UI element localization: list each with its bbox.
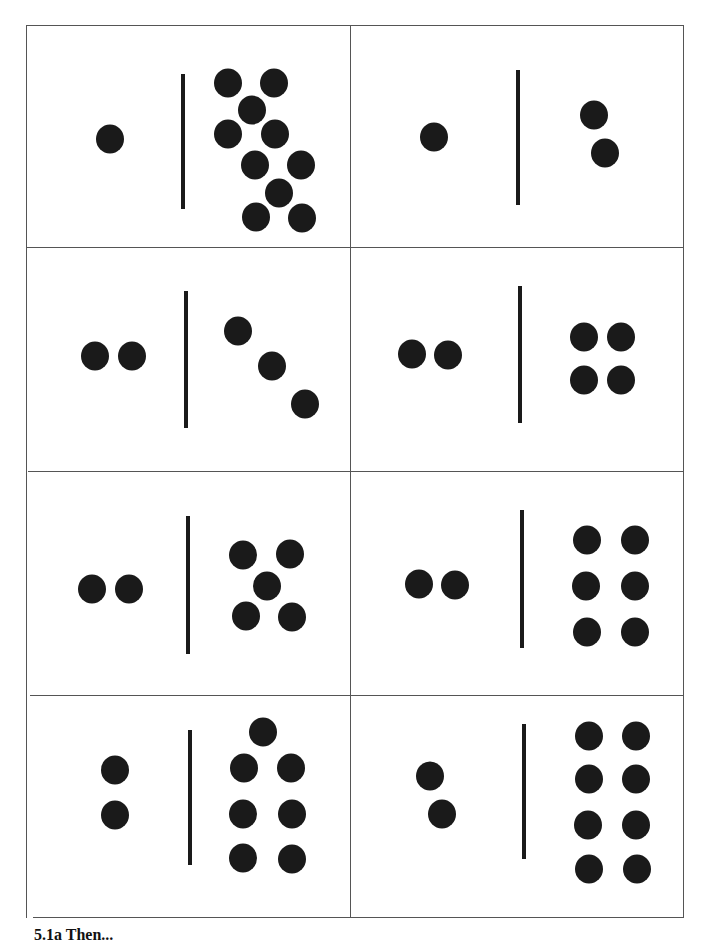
right-dot-icon bbox=[607, 366, 635, 395]
grid-row-divider-3 bbox=[30, 695, 684, 696]
right-dot-icon bbox=[229, 541, 257, 570]
grid-row-divider-2 bbox=[28, 471, 684, 472]
left-dot-icon bbox=[420, 123, 448, 152]
card-divider-line bbox=[516, 70, 520, 205]
right-dot-icon bbox=[621, 572, 649, 601]
left-dot-icon bbox=[405, 570, 433, 599]
left-dot-icon bbox=[81, 342, 109, 371]
right-dot-icon bbox=[278, 845, 306, 874]
footer-caption: 5.1a Then... bbox=[34, 926, 113, 944]
right-dot-icon bbox=[258, 352, 286, 381]
left-dot-icon bbox=[428, 800, 456, 829]
grid-row-divider-1 bbox=[26, 247, 684, 248]
right-dot-icon bbox=[276, 540, 304, 569]
left-dot-icon bbox=[96, 125, 124, 154]
card-divider-line bbox=[520, 510, 524, 648]
right-dot-icon bbox=[291, 390, 319, 419]
right-dot-icon bbox=[278, 800, 306, 829]
card-divider-line bbox=[184, 291, 188, 428]
right-dot-icon bbox=[607, 323, 635, 352]
right-dot-icon bbox=[570, 366, 598, 395]
right-dot-icon bbox=[260, 69, 288, 98]
right-dot-icon bbox=[214, 69, 242, 98]
left-dot-icon bbox=[398, 340, 426, 369]
grid-border-left bbox=[26, 25, 27, 918]
right-dot-icon bbox=[287, 151, 315, 180]
right-dot-icon bbox=[241, 151, 269, 180]
right-dot-icon bbox=[570, 323, 598, 352]
grid-border-bottom bbox=[33, 917, 683, 918]
right-dot-icon bbox=[623, 855, 651, 884]
right-dot-icon bbox=[574, 811, 602, 840]
right-dot-icon bbox=[249, 718, 277, 747]
right-dot-icon bbox=[572, 572, 600, 601]
right-dot-icon bbox=[621, 618, 649, 647]
left-dot-icon bbox=[118, 342, 146, 371]
right-dot-icon bbox=[580, 101, 608, 130]
card-divider-line bbox=[186, 516, 190, 654]
right-dot-icon bbox=[230, 754, 258, 783]
card-divider-line bbox=[518, 286, 522, 423]
left-dot-icon bbox=[115, 575, 143, 604]
right-dot-icon bbox=[253, 572, 281, 601]
right-dot-icon bbox=[622, 722, 650, 751]
left-dot-icon bbox=[101, 756, 129, 785]
grid-border-top bbox=[26, 25, 684, 26]
right-dot-icon bbox=[575, 722, 603, 751]
right-dot-icon bbox=[621, 526, 649, 555]
right-dot-icon bbox=[575, 765, 603, 794]
right-dot-icon bbox=[261, 120, 289, 149]
right-dot-icon bbox=[214, 120, 242, 149]
right-dot-icon bbox=[278, 603, 306, 632]
right-dot-icon bbox=[277, 754, 305, 783]
right-dot-icon bbox=[591, 139, 619, 168]
card-divider-line bbox=[188, 730, 192, 865]
right-dot-icon bbox=[265, 179, 293, 208]
right-dot-icon bbox=[224, 317, 252, 346]
right-dot-icon bbox=[229, 800, 257, 829]
right-dot-icon bbox=[573, 618, 601, 647]
right-dot-icon bbox=[573, 526, 601, 555]
right-dot-icon bbox=[575, 855, 603, 884]
right-dot-icon bbox=[242, 203, 270, 232]
left-dot-icon bbox=[416, 762, 444, 791]
left-dot-icon bbox=[441, 571, 469, 600]
right-dot-icon bbox=[622, 811, 650, 840]
left-dot-icon bbox=[78, 575, 106, 604]
left-dot-icon bbox=[101, 801, 129, 830]
right-dot-icon bbox=[288, 204, 316, 233]
right-dot-icon bbox=[232, 602, 260, 631]
left-dot-icon bbox=[434, 341, 462, 370]
right-dot-icon bbox=[229, 844, 257, 873]
card-divider-line bbox=[181, 74, 185, 209]
card-divider-line bbox=[522, 724, 526, 859]
right-dot-icon bbox=[238, 96, 266, 125]
right-dot-icon bbox=[622, 765, 650, 794]
